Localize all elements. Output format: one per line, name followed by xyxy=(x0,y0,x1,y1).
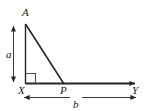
dimension-label-b: b xyxy=(73,99,79,110)
dimension-label-a: a xyxy=(6,49,12,60)
right-angle-marker xyxy=(26,74,36,84)
vertex-label-Y: Y xyxy=(132,85,138,96)
vertex-label-P: P xyxy=(60,85,67,96)
segment-AP xyxy=(26,24,65,84)
vertex-label-X: X xyxy=(18,85,25,96)
geometry-figure: A a X P Y b xyxy=(0,0,147,111)
vertex-label-A: A xyxy=(22,7,29,18)
